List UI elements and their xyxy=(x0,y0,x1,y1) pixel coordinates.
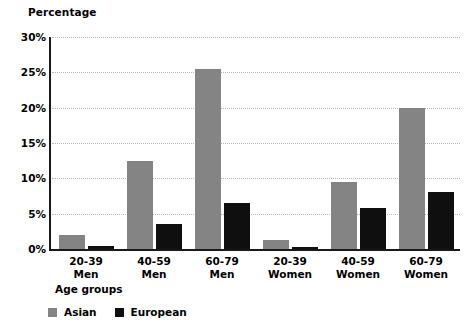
x-axis-category-label: 40-59Women xyxy=(324,255,392,280)
y-axis-tick-label: 30% xyxy=(21,32,46,43)
legend-label: Asian xyxy=(64,306,97,318)
legend-swatch-icon xyxy=(48,308,57,317)
bar-group xyxy=(188,37,256,249)
x-axis-line xyxy=(49,249,460,251)
bar-asian xyxy=(59,235,85,249)
category-age-range: 40-59 xyxy=(341,255,375,267)
bar-asian xyxy=(399,108,425,249)
x-axis-category-label: 20-39Men xyxy=(52,255,120,280)
bar-group xyxy=(52,37,120,249)
legend-item-european: European xyxy=(115,306,187,318)
category-age-range: 20-39 xyxy=(69,255,103,267)
y-axis-line xyxy=(49,37,51,251)
legend-label: European xyxy=(131,306,187,318)
bar-asian xyxy=(331,182,357,249)
bar-group xyxy=(324,37,392,249)
bar-asian xyxy=(263,240,289,249)
x-axis-category-label: 40-59Men xyxy=(120,255,188,280)
x-axis-category-label: 60-79Women xyxy=(392,255,460,280)
bar-european xyxy=(428,192,454,249)
category-age-range: 60-79 xyxy=(409,255,443,267)
y-axis-tick-label: 10% xyxy=(21,173,46,184)
chart-legend: AsianEuropean xyxy=(48,306,187,318)
category-sex: Women xyxy=(392,268,460,281)
y-axis-tick-label: 25% xyxy=(21,67,46,78)
y-axis-tick-label: 5% xyxy=(28,208,46,219)
category-sex: Men xyxy=(120,268,188,281)
bar-group xyxy=(256,37,324,249)
y-axis-tick-label: 0% xyxy=(28,244,46,255)
bar-asian xyxy=(127,161,153,249)
bar-european xyxy=(292,247,318,249)
category-sex: Men xyxy=(188,268,256,281)
x-axis-category-label: 20-39Women xyxy=(256,255,324,280)
y-axis-tick-label: 20% xyxy=(21,102,46,113)
bar-asian xyxy=(195,69,221,249)
y-axis-tick-label: 15% xyxy=(21,138,46,149)
category-age-range: 40-59 xyxy=(137,255,171,267)
x-axis-title: Age groups xyxy=(55,283,123,295)
x-axis-category-label: 60-79Men xyxy=(188,255,256,280)
bar-group xyxy=(120,37,188,249)
category-sex: Men xyxy=(52,268,120,281)
category-age-range: 20-39 xyxy=(273,255,307,267)
bar-chart: Percentage 0%5%10%15%20%25%30% Age group… xyxy=(0,0,472,326)
bar-european xyxy=(224,203,250,249)
category-sex: Women xyxy=(324,268,392,281)
bar-group xyxy=(392,37,460,249)
category-sex: Women xyxy=(256,268,324,281)
bar-european xyxy=(156,224,182,249)
legend-swatch-icon xyxy=(115,308,124,317)
bar-european xyxy=(360,208,386,249)
legend-item-asian: Asian xyxy=(48,306,97,318)
bar-european xyxy=(88,246,114,249)
y-axis-title: Percentage xyxy=(28,6,97,18)
category-age-range: 60-79 xyxy=(205,255,239,267)
plot-area: 0%5%10%15%20%25%30% xyxy=(52,37,460,249)
